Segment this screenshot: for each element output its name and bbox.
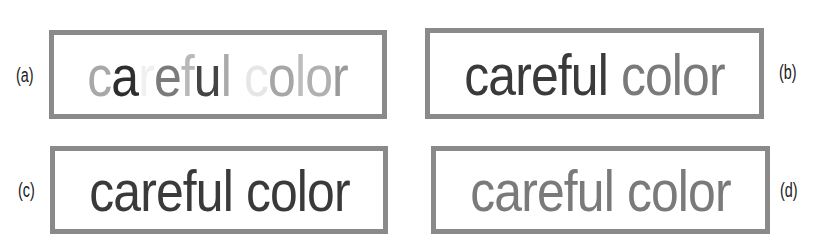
letter (231, 43, 244, 108)
panel-d-box: careful color (431, 146, 770, 234)
panel-d-text: careful color (470, 162, 731, 220)
letter: c (88, 43, 112, 108)
panel-label-a: (a) (16, 65, 34, 85)
panel-b-text: careful color (464, 46, 725, 104)
word-space (608, 42, 621, 107)
letter: r (333, 43, 349, 108)
panel-b-box: careful color (425, 28, 764, 119)
letter: r (139, 43, 155, 108)
letter: o (306, 43, 333, 108)
letter: e (154, 43, 181, 108)
panel-label-b: (b) (779, 62, 797, 82)
panel-label-c: (c) (18, 180, 35, 200)
letter: f (181, 43, 194, 108)
word-color: color (621, 42, 725, 107)
panel-c-box: careful color (50, 146, 388, 234)
letter: u (194, 43, 221, 108)
panel-a-text: careful color (88, 47, 349, 105)
letter: o (269, 43, 296, 108)
word-careful: careful (464, 42, 608, 107)
panel-c-text: careful color (89, 162, 350, 220)
panel-label-d: (d) (780, 180, 798, 200)
letter: c (244, 43, 268, 108)
panel-a-box: careful color (49, 30, 387, 119)
letter: a (112, 43, 139, 108)
